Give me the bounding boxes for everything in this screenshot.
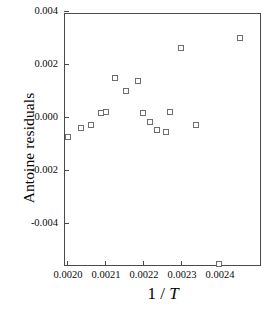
plot-data-area [64,13,261,266]
data-point-marker [88,122,94,128]
data-point-marker [154,127,160,133]
x-axis-tick-label: 0.0024 [193,269,247,280]
y-axis-tick-label: -0.004 [2,217,58,228]
data-point-marker [163,129,169,135]
data-point-marker [216,261,222,267]
y-axis-tick-label: 0.004 [2,5,58,16]
x-axis-title-variable: T [169,284,178,303]
y-axis-tick-label: -0.002 [2,164,58,175]
data-point-marker [65,134,71,140]
data-point-marker [135,78,141,84]
data-point-marker [237,35,243,41]
data-point-marker [112,75,118,81]
data-point-marker [123,88,129,94]
x-axis-title-prefix: 1 / [147,284,169,303]
x-axis-title: 1 / T [64,284,262,304]
data-point-marker [140,110,146,116]
data-point-marker [78,125,84,131]
data-point-marker [178,45,184,51]
data-point-marker [167,109,173,115]
y-axis-tick-label: 0.000 [2,111,58,122]
data-point-marker [147,119,153,125]
y-axis-tick-label: 0.002 [2,58,58,69]
data-point-marker [103,109,109,115]
scatter-chart-figure: Antoine residuals 1 / T 0.0040.0020.000-… [0,0,270,309]
y-axis-title: Antoine residuals [20,63,38,233]
data-point-marker [193,122,199,128]
